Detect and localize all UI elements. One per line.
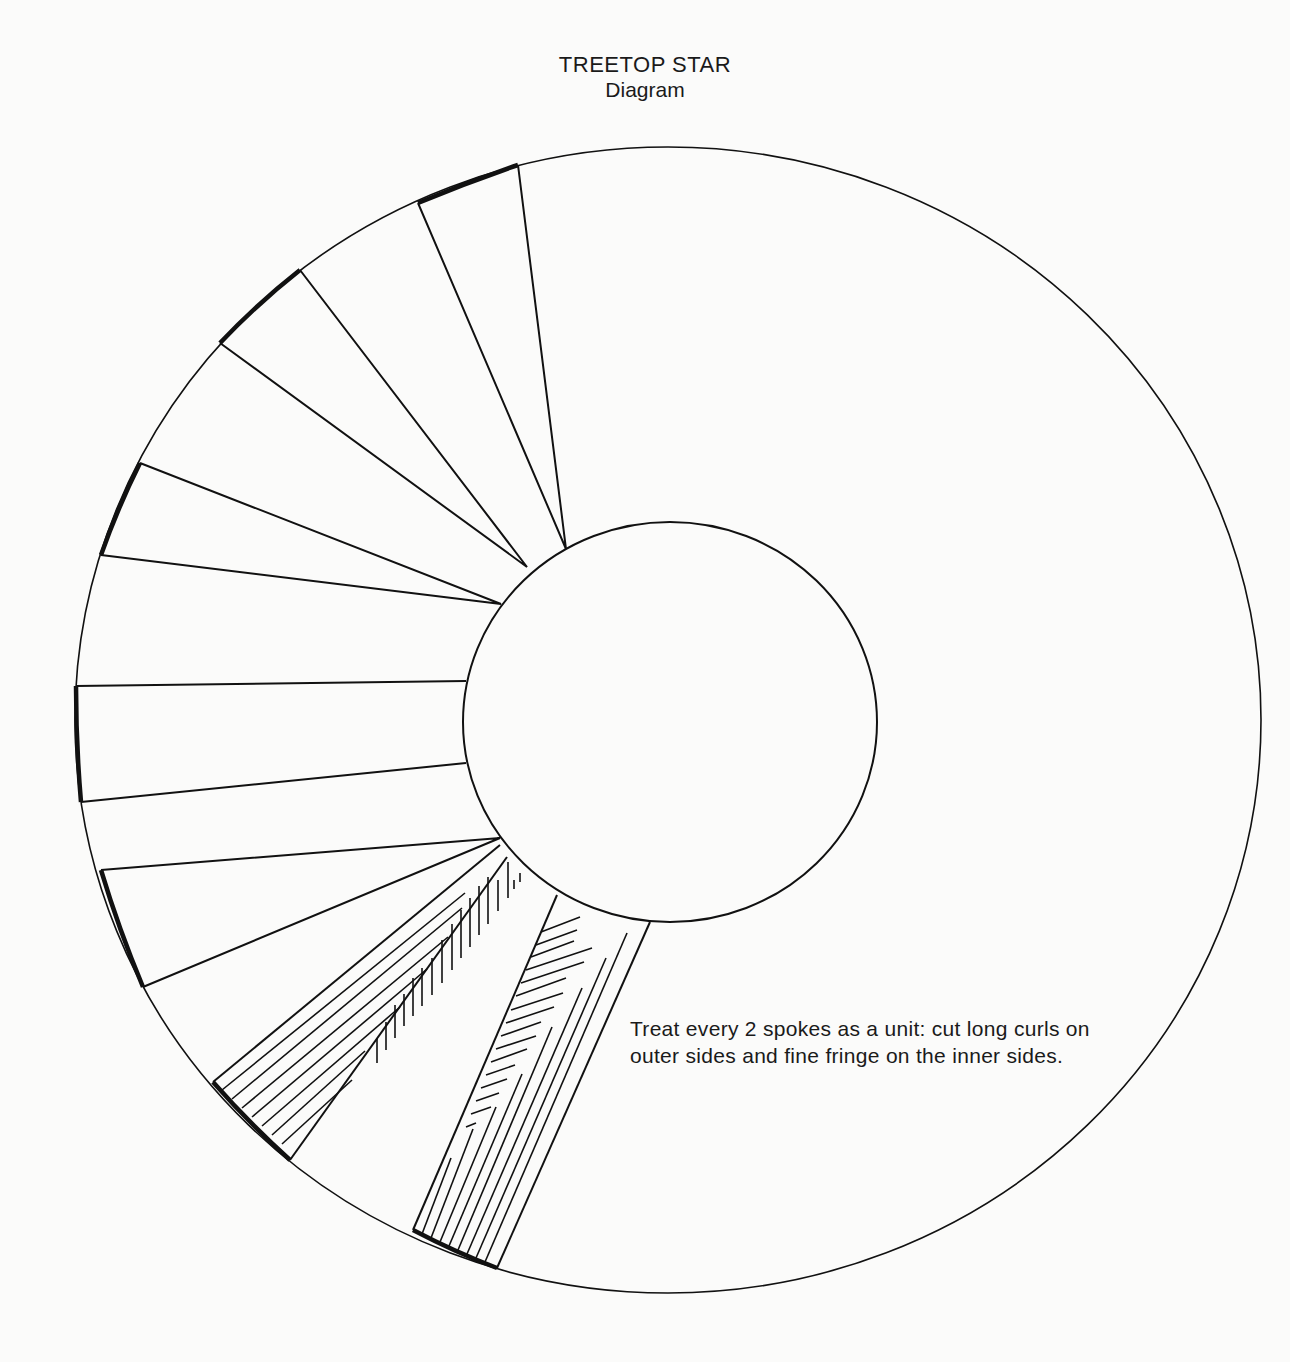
outer-circle <box>75 147 1261 1293</box>
spoke-4 <box>76 681 466 802</box>
treetop-star-diagram <box>0 0 1290 1362</box>
spoke-2 <box>220 270 527 567</box>
spoke-7-hatched <box>413 895 650 1268</box>
instruction-note: Treat every 2 spokes as a unit: cut long… <box>630 1015 1110 1069</box>
spoke-3 <box>101 463 501 604</box>
inner-circle <box>463 522 877 922</box>
spoke-1 <box>418 165 566 549</box>
